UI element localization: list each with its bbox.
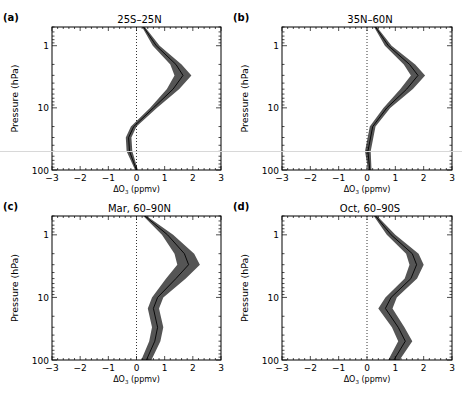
x-tick-label: 1 xyxy=(162,363,168,373)
x-tick-label: −1 xyxy=(332,173,345,183)
panel-d: −3−2−10123110100Pressure (hPa)ΔO3 (ppmv)… xyxy=(233,201,455,385)
x-axis-label: ΔO3 (ppmv) xyxy=(344,185,391,195)
panel-letter: (c) xyxy=(3,201,18,212)
panel-letter: (a) xyxy=(3,12,19,23)
x-tick-label: 2 xyxy=(421,173,427,183)
x-tick-label: 3 xyxy=(218,173,224,183)
x-tick-label: 2 xyxy=(421,363,427,373)
panel-letter: (d) xyxy=(233,201,249,212)
x-tick-label: −1 xyxy=(102,363,115,373)
x-tick-label: 0 xyxy=(134,173,140,183)
y-tick-label: 100 xyxy=(262,166,279,176)
x-tick-label: 3 xyxy=(449,173,455,183)
y-tick-label: 1 xyxy=(273,41,279,51)
x-tick-label: −2 xyxy=(304,173,317,183)
x-tick-label: 1 xyxy=(162,173,168,183)
x-tick-label: 3 xyxy=(218,363,224,373)
x-axis-label: ΔO3 (ppmv) xyxy=(113,185,160,195)
x-axis-label: ΔO3 (ppmv) xyxy=(344,375,391,385)
y-tick-label: 1 xyxy=(43,230,49,240)
x-tick-label: −1 xyxy=(332,363,345,373)
x-tick-label: 2 xyxy=(190,173,196,183)
y-tick-label: 10 xyxy=(38,293,50,303)
y-axis-label: Pressure (hPa) xyxy=(239,64,250,132)
panel-title: Oct, 60–90S xyxy=(340,203,400,214)
x-axis-label: ΔO3 (ppmv) xyxy=(113,375,160,385)
x-tick-label: −2 xyxy=(304,363,317,373)
y-tick-label: 100 xyxy=(32,166,49,176)
x-tick-label: −2 xyxy=(74,173,87,183)
figure: −3−2−10123110100Pressure (hPa)ΔO3 (ppmv)… xyxy=(0,0,462,394)
x-tick-label: 3 xyxy=(449,363,455,373)
x-tick-label: −2 xyxy=(74,363,87,373)
panel-c: −3−2−10123110100Pressure (hPa)ΔO3 (ppmv)… xyxy=(3,201,224,385)
y-tick-label: 100 xyxy=(262,356,279,366)
panel-a: −3−2−10123110100Pressure (hPa)ΔO3 (ppmv)… xyxy=(3,12,224,195)
x-tick-label: −1 xyxy=(102,173,115,183)
scan-line-artifact xyxy=(0,151,462,152)
panel-letter: (b) xyxy=(233,12,249,23)
x-tick-label: 1 xyxy=(392,173,398,183)
x-tick-label: 2 xyxy=(190,363,196,373)
panel-b: −3−2−10123110100Pressure (hPa)ΔO3 (ppmv)… xyxy=(233,12,455,195)
y-tick-label: 1 xyxy=(273,230,279,240)
y-axis-label: Pressure (hPa) xyxy=(9,64,20,132)
y-tick-label: 100 xyxy=(32,356,49,366)
y-tick-label: 10 xyxy=(38,103,50,113)
x-tick-label: 0 xyxy=(364,363,370,373)
y-axis-label: Pressure (hPa) xyxy=(239,254,250,322)
y-tick-label: 10 xyxy=(268,103,280,113)
panel-title: 35N–60N xyxy=(347,14,392,25)
x-tick-label: 1 xyxy=(392,363,398,373)
x-tick-label: 0 xyxy=(134,363,140,373)
panel-title: Mar, 60–90N xyxy=(108,203,171,214)
uncertainty-band xyxy=(374,216,424,360)
y-tick-label: 10 xyxy=(268,293,280,303)
y-axis-label: Pressure (hPa) xyxy=(9,254,20,322)
y-tick-label: 1 xyxy=(43,41,49,51)
x-tick-label: 0 xyxy=(364,173,370,183)
uncertainty-band xyxy=(365,27,425,170)
panel-title: 25S–25N xyxy=(117,14,161,25)
